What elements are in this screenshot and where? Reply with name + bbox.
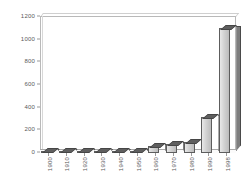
x-tick-1980: 1980 [184, 153, 201, 192]
y-tick-label: 600 [24, 81, 35, 87]
bar-top-face [95, 148, 112, 153]
x-tick-mark [155, 153, 156, 156]
x-tick-1940: 1940 [112, 153, 129, 192]
bar-top-face [60, 148, 77, 153]
y-axis: 020040060080010001200 [0, 0, 40, 192]
y-tick-label: 1200 [21, 13, 35, 19]
bar-front-face [201, 117, 212, 153]
bar-top-face [131, 148, 148, 153]
x-tick-1920: 1920 [77, 153, 94, 192]
column-chart: 020040060080010001200 190019101920193019… [0, 0, 248, 192]
x-tick-mark [137, 153, 138, 156]
x-tick-1910: 1910 [59, 153, 76, 192]
bar-side-face [236, 26, 241, 151]
x-tick-1930: 1930 [94, 153, 111, 192]
x-tick-label: 1920 [82, 157, 88, 171]
bar-1900[interactable] [41, 16, 58, 153]
x-tick-mark [66, 153, 67, 156]
bar-1980[interactable] [184, 16, 201, 153]
x-tick-label: 1990 [207, 157, 213, 171]
bar-top-face [113, 148, 130, 153]
bar-1970[interactable] [166, 16, 183, 153]
y-tick-label: 0 [31, 149, 35, 155]
bar-front-face [166, 144, 177, 153]
x-tick-mark [84, 153, 85, 156]
x-tick-1970: 1970 [166, 153, 183, 192]
x-tick-label: 1970 [171, 157, 177, 171]
x-tick-label: 1940 [118, 157, 124, 171]
x-tick-1990: 1990 [201, 153, 218, 192]
bar-top-face [185, 139, 202, 144]
x-tick-mark [101, 153, 102, 156]
x-tick-label: 1980 [189, 157, 195, 171]
y-tick-label: 1000 [21, 36, 35, 42]
x-tick-1900: 1900 [41, 153, 58, 192]
x-tick-mark [226, 153, 227, 156]
bar-1950[interactable] [130, 16, 147, 153]
bar-1920[interactable] [77, 16, 94, 153]
x-tick-mark [191, 153, 192, 156]
y-tick-label: 800 [24, 58, 35, 64]
x-tick-label: 1900 [47, 157, 53, 171]
bar-top-face [78, 148, 95, 153]
bar-1910[interactable] [59, 16, 76, 153]
x-tick-label: 1950 [136, 157, 142, 171]
x-tick-1998: 1998 [219, 153, 236, 192]
bar-1990[interactable] [201, 16, 218, 153]
x-tick-label: 1960 [153, 157, 159, 171]
bar-top-face [167, 141, 184, 146]
bar-front-face [184, 142, 195, 153]
x-tick-mark [208, 153, 209, 156]
bar-top-face [149, 143, 166, 148]
x-tick-label: 1910 [64, 157, 70, 171]
x-axis: 1900191019201930194019501960197019801990… [40, 153, 236, 192]
bar-top-face [42, 148, 59, 153]
bar-top-face [202, 114, 219, 119]
x-tick-label: 1930 [100, 157, 106, 171]
x-tick-1950: 1950 [130, 153, 147, 192]
bars-layer [40, 16, 236, 153]
bar-1960[interactable] [148, 16, 165, 153]
x-tick-mark [173, 153, 174, 156]
bar-top-face [220, 25, 237, 30]
y-tick-label: 400 [24, 104, 35, 110]
bar-front-face [219, 28, 230, 153]
x-tick-mark [48, 153, 49, 156]
bar-1998[interactable] [219, 16, 236, 153]
y-tick-label: 200 [24, 126, 35, 132]
x-tick-mark [119, 153, 120, 156]
bar-1940[interactable] [112, 16, 129, 153]
bar-front-face [148, 146, 159, 153]
bar-1930[interactable] [94, 16, 111, 153]
x-tick-label: 1998 [225, 157, 231, 171]
x-tick-1960: 1960 [148, 153, 165, 192]
